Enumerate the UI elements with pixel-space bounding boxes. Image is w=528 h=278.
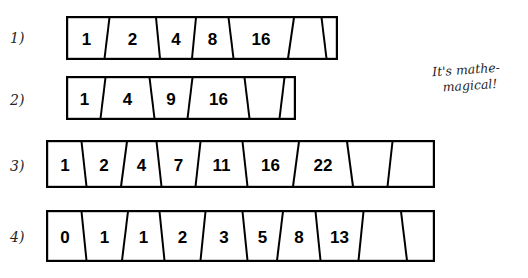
cell-value: 8 (294, 228, 303, 247)
cell-value: 1 (139, 228, 148, 247)
handwritten-note: It's mathe- magical! (416, 62, 516, 94)
sequence-row: 4)011235813 (0, 0, 528, 278)
cell-value: 5 (258, 228, 267, 247)
cell-value: 2 (178, 228, 187, 247)
cell-value: 13 (330, 228, 349, 247)
cell-value: 3 (219, 228, 228, 247)
cell-value: 1 (100, 228, 109, 247)
row-label: 4) (10, 229, 24, 245)
math-sequence-worksheet: 1)1248162)149163)12471116224)011235813 I… (0, 0, 528, 278)
cell-value: 0 (60, 228, 69, 247)
number-strip: 011235813 (46, 210, 435, 262)
